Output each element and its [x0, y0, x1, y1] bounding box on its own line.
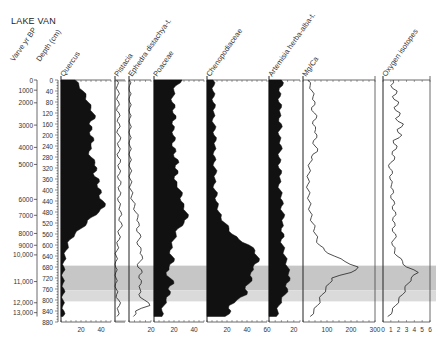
depth-tick-label: 480 [42, 209, 53, 216]
x-tick-label: 200 [346, 326, 357, 333]
series-title: Ephedra distachya-t. [126, 17, 173, 79]
varve-tick-label: 5000 [19, 161, 34, 168]
depth-tick-label: 840 [42, 308, 53, 315]
depth-tick-label: 520 [42, 220, 53, 227]
series-title: Quercus [58, 50, 82, 79]
depth-tick-label: 280 [42, 154, 53, 161]
x-tick-label: 0 [381, 326, 385, 333]
series-title: Mg/Ca [300, 54, 321, 78]
series-title: Chenopodiaceae [204, 27, 244, 79]
depth-tick-label: 160 [42, 121, 53, 128]
x-tick-label: 2 [397, 326, 401, 333]
series-title: Poaceae [151, 49, 175, 78]
depth-tick-label: 640 [42, 253, 53, 260]
varve-tick-label: 3000 [19, 122, 34, 129]
depth-tick-label: 760 [42, 286, 53, 293]
filled-curve [269, 80, 290, 317]
depth-tick-label: 440 [42, 198, 53, 205]
x-tick-label: 40 [243, 326, 251, 333]
x-tick-label: 1 [389, 326, 393, 333]
depth-tick-label: 600 [42, 242, 53, 249]
depth-tick-label: 720 [42, 275, 53, 282]
x-tick-label: 300 [370, 326, 381, 333]
x-tick-label: 4 [413, 326, 417, 333]
chart-svg: 010002000300040005000600070008000900010,… [0, 0, 445, 345]
varve-tick-label: 2000 [19, 99, 34, 106]
varve-tick-label: 11,000 [14, 278, 34, 285]
varve-tick-label: 10,000 [13, 251, 33, 258]
depth-tick-label: 360 [42, 176, 53, 183]
depth-tick-label: 40 [46, 88, 54, 95]
varve-tick-label: 1000 [19, 87, 34, 94]
depth-axis-title: Depth (cm) [34, 27, 63, 63]
x-tick-label: 3 [405, 326, 409, 333]
x-tick-label: 20 [290, 326, 298, 333]
depth-tick-label: 400 [42, 187, 53, 194]
varve-tick-label: 9000 [19, 242, 34, 249]
depth-tick-label: 560 [42, 231, 53, 238]
varve-tick-label: 12,000 [13, 299, 33, 306]
varve-tick-label: 4000 [19, 144, 34, 151]
x-tick-label: 20 [223, 326, 231, 333]
x-tick-label: 6 [428, 326, 432, 333]
depth-tick-label: 320 [42, 165, 53, 172]
varve-tick-label: 6000 [19, 196, 34, 203]
depth-tick-label: 680 [42, 264, 53, 271]
varve-tick-label: 7000 [19, 212, 34, 219]
series-title: Oxygen isotopes [380, 27, 420, 78]
x-tick-label: 20 [77, 326, 85, 333]
x-tick-label: 20 [147, 326, 155, 333]
filled-curve [207, 80, 260, 317]
depth-tick-label: 80 [46, 99, 54, 106]
x-tick-label: 40 [190, 326, 198, 333]
depth-tick-label: 880 [42, 319, 53, 326]
varve-tick-label: 0 [29, 77, 33, 84]
pollen-diagram: LAKE VAN 0100020003000400050006000700080… [0, 0, 445, 345]
depth-tick-label: 240 [42, 143, 53, 150]
depth-tick-label: 800 [42, 297, 53, 304]
depth-tick-label: 200 [42, 132, 53, 139]
shaded-interval-1 [61, 290, 436, 301]
x-tick-label: 60 [263, 326, 271, 333]
depth-tick-label: 0 [49, 77, 53, 84]
varve-tick-label: 13,000 [13, 309, 33, 316]
x-tick-label: 40 [97, 326, 105, 333]
varve-tick-label: 8000 [19, 230, 34, 237]
x-tick-label: 20 [170, 326, 178, 333]
depth-tick-label: 120 [42, 110, 53, 117]
x-tick-label: 100 [322, 326, 333, 333]
x-tick-label: 5 [420, 326, 424, 333]
